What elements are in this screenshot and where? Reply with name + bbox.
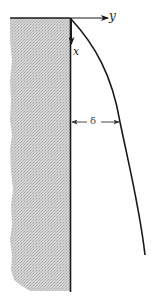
y-axis-label: y [109,10,116,22]
boundary-layer-edge-curve [71,19,145,255]
delta-thickness-label: δ [90,116,96,126]
x-axis-label: x [73,46,79,57]
wall-shading [10,18,70,291]
